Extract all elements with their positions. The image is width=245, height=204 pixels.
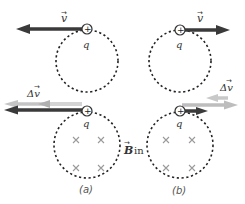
charge-label: q — [176, 118, 182, 129]
vector-arrow-icon: → — [61, 9, 67, 17]
vector-arrow-icon: → — [34, 83, 40, 91]
charge-label: q — [83, 118, 89, 129]
field-into-page-marks — [73, 137, 104, 171]
vector-arrow-icon: → — [226, 77, 232, 85]
panel-b-caption: (b) — [172, 185, 186, 196]
vector-arrow-icon: → — [197, 9, 203, 17]
charge-sign: + — [84, 24, 92, 34]
field-symbol: B — [123, 144, 133, 157]
panel-a-top: v → + q — [16, 9, 118, 92]
field-into-page-marks — [163, 137, 195, 171]
velocity-arrow — [185, 25, 230, 35]
charge-label: q — [176, 39, 182, 50]
panel-a-caption: (a) — [79, 184, 93, 195]
old-velocity-arrow — [182, 101, 238, 110]
charge-sign: + — [84, 106, 92, 116]
magnetic-field-label: → B in — [123, 139, 144, 157]
panel-a: Δv → + q (a) — [4, 83, 120, 195]
charge-sign: + — [177, 25, 185, 35]
field-direction: in — [134, 145, 144, 156]
panel-b: Δv → + q (b) — [147, 77, 238, 196]
velocity-arrow — [4, 106, 82, 115]
panel-b-top: v → + q — [149, 9, 230, 92]
magnetic-force-diagram: v → + q v → + q Δv → — [0, 0, 245, 204]
charge-sign: + — [177, 106, 185, 116]
charge-label: q — [83, 39, 89, 50]
velocity-arrow — [16, 24, 82, 34]
